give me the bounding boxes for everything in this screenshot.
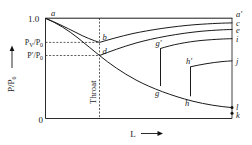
x-axis-title-group: L: [130, 129, 163, 139]
y-axis-title-group: P/P0: [6, 46, 17, 93]
right-arrow-icon: [158, 131, 164, 136]
point-label-g-prime: g′: [156, 38, 162, 48]
y-axis-title-main: P/P: [6, 79, 16, 92]
pressure-distribution-chart: 1.0 0 PV/P0 P′/P0 P/P0 L Throat a: [0, 0, 252, 145]
point-label-d: d: [103, 46, 108, 56]
curve-hprime-j: [191, 61, 233, 67]
point-label-g: g: [155, 88, 159, 98]
origin-label: 0: [39, 115, 44, 125]
y-tick-label-1.0: 1.0: [28, 14, 40, 24]
curve-a-b-c: [46, 19, 232, 43]
point-label-i: i: [236, 34, 239, 44]
y-axis-title-sub: 0: [11, 76, 17, 79]
up-arrow-icon: [10, 46, 15, 52]
x-axis-title: L: [130, 129, 136, 139]
point-marker-l: [231, 106, 234, 109]
curve-gprime-i: [161, 39, 233, 49]
point-label-j: j: [235, 56, 239, 66]
point-label-k: k: [236, 110, 240, 120]
point-label-h-prime: h′: [186, 56, 192, 66]
point-label-b: b: [103, 32, 107, 42]
point-label-a: a: [51, 8, 55, 18]
pv-denominator-subscript: 0: [40, 42, 43, 48]
throat-label: Throat: [88, 80, 98, 104]
point-marker-k: [231, 112, 234, 115]
y-tick-label-pprime: P′/P0: [27, 51, 43, 61]
point-label-h: h: [185, 98, 189, 108]
y-axis-title: P/P0: [6, 76, 17, 92]
y-tick-label-pv: PV/P0: [25, 38, 43, 48]
nozzle-pressure-figure: 1.0 0 PV/P0 P′/P0 P/P0 L Throat a: [0, 0, 252, 145]
pprime-denominator-subscript: 0: [40, 55, 43, 61]
curve-d-l-supersonic: [100, 56, 233, 108]
